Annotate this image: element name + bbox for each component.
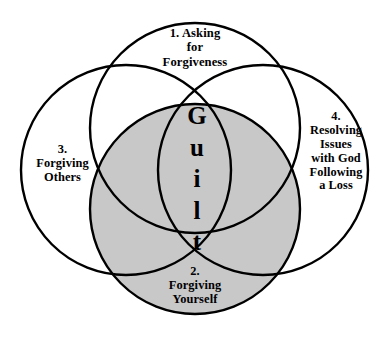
circle-label-4-line-3: Issues [288, 138, 384, 152]
circle-label-1-line-1: 1. Asking [130, 26, 260, 40]
circle-label-2-line-1: 2. [135, 264, 255, 278]
center-letter-5: t [171, 230, 223, 255]
circle-label-1-line-3: Forgiveness [130, 55, 260, 69]
circle-label-1: 1. Asking for Forgiveness [130, 26, 260, 69]
circle-label-1-line-2: for [130, 40, 260, 54]
circle-label-4-line-1: 4. [288, 110, 384, 124]
venn-diagram: 1. Asking for Forgiveness 3. Forgiving O… [0, 0, 389, 342]
circle-label-3-line-3: Others [15, 170, 110, 184]
circle-label-2-line-2: Forgiving [135, 278, 255, 292]
circle-label-3: 3. Forgiving Others [15, 142, 110, 184]
circle-label-4-line-4: with God [288, 152, 384, 166]
center-word-guilt: G u i l t [171, 104, 223, 255]
circle-label-4-line-6: a Loss [288, 179, 384, 193]
circle-label-4-line-5: Following [288, 166, 384, 180]
circle-label-4: 4. Resolving Issues with God Following a… [288, 110, 384, 193]
circle-label-4-line-2: Resolving [288, 124, 384, 138]
circle-label-3-line-1: 3. [15, 142, 110, 156]
circle-label-2: 2. Forgiving Yourself [135, 264, 255, 306]
center-letter-1: G [171, 104, 223, 129]
center-letter-3: i [171, 167, 223, 192]
circle-label-2-line-3: Yourself [135, 292, 255, 306]
center-letter-2: u [171, 136, 223, 161]
center-letter-4: l [171, 199, 223, 224]
circle-label-3-line-2: Forgiving [15, 156, 110, 170]
